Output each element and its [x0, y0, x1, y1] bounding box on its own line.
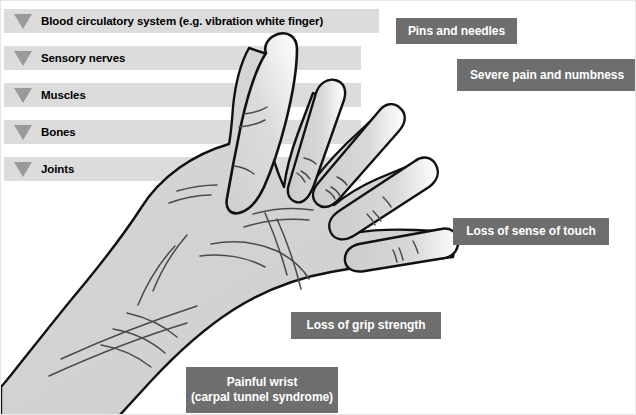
callout-painful-wrist[interactable]: Painful wrist (carpal tunnel syndrome): [186, 367, 338, 413]
callout-loss-of-sense-of-touch[interactable]: Loss of sense of touch: [453, 218, 609, 245]
palm-and-wrist-shape: [1, 48, 457, 415]
callout-severe-pain-and-numbness[interactable]: Severe pain and numbness: [457, 59, 636, 91]
callout-line: Painful wrist: [227, 375, 298, 390]
callout-loss-of-grip-strength[interactable]: Loss of grip strength: [291, 312, 441, 339]
callout-line: (carpal tunnel syndrome): [191, 390, 333, 405]
hand-silhouette: [1, 33, 458, 415]
callout-line: Loss of grip strength: [307, 318, 426, 333]
callout-line: Severe pain and numbness: [470, 68, 624, 83]
callout-line: Pins and needles: [408, 24, 505, 39]
callout-line: Loss of sense of touch: [466, 224, 596, 239]
callout-pins-and-needles[interactable]: Pins and needles: [396, 18, 517, 44]
vibration-hand-diagram: Blood circulatory system (e.g. vibration…: [0, 0, 636, 415]
